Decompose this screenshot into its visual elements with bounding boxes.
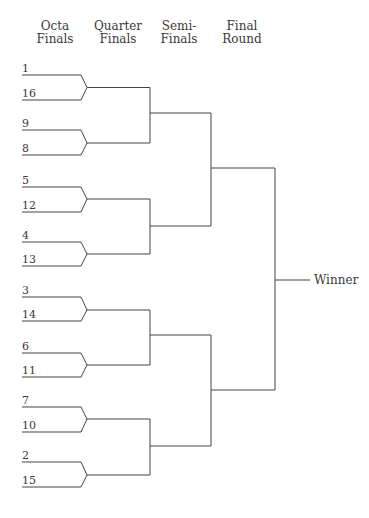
octa-pair-4-13 <box>22 242 150 266</box>
octa-pair-7-10 <box>22 407 150 432</box>
quarter-joins <box>150 88 211 476</box>
octa-pair-9-8 <box>22 130 150 155</box>
final-join <box>275 168 310 390</box>
octa-pair-1-16 <box>22 75 150 100</box>
octa-pair-2-15 <box>22 462 150 487</box>
octa-pair-5-12 <box>22 187 150 212</box>
bracket-lines <box>0 0 369 518</box>
octa-pair-6-11 <box>22 353 150 377</box>
winner-label: Winner <box>314 273 358 287</box>
semi-joins <box>211 113 275 446</box>
octa-pair-3-14 <box>22 297 150 321</box>
